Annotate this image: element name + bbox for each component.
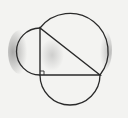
right-shading — [92, 28, 112, 72]
horizontal-leg-semicircle — [40, 75, 100, 105]
left-shading — [8, 30, 32, 74]
pythagorean-semicircles-diagram — [0, 0, 128, 118]
diagram-canvas — [0, 0, 128, 118]
